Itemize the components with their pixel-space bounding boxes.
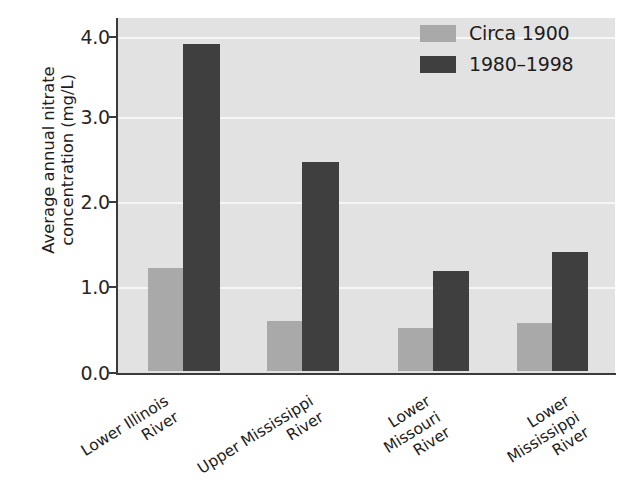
chart-legend: Circa 1900 1980–1998 (420, 22, 620, 84)
y-tick-label-4: 4.0 (64, 26, 110, 48)
legend-swatch-circa-1900 (420, 25, 456, 42)
y-tick-label-2: 2.0 (64, 191, 110, 213)
legend-label-circa-1900: Circa 1900 (469, 22, 569, 44)
y-axis-line (116, 18, 118, 375)
bar-lower-missouri-circa-1900 (398, 328, 433, 371)
bar-upper-mississippi-1980-1998 (302, 162, 339, 371)
bar-lower-mississippi-1980-1998 (552, 252, 588, 371)
bar-lower-mississippi-circa-1900 (517, 323, 552, 371)
bar-lower-illinois-1980-1998 (183, 44, 220, 371)
legend-swatch-1980-1998 (420, 56, 456, 73)
y-tick-label-0: 0.0 (64, 362, 110, 384)
legend-item-1980-1998: 1980–1998 (420, 53, 620, 75)
bar-lower-missouri-1980-1998 (433, 271, 469, 371)
bar-lower-illinois-circa-1900 (148, 268, 183, 371)
x-tick-label-lower-mississippi-river: Lower Mississippi River (444, 392, 592, 498)
x-tick-label-lower-missouri-river: Lower Missouri River (321, 392, 454, 498)
legend-item-circa-1900: Circa 1900 (420, 22, 620, 44)
bar-upper-mississippi-circa-1900 (267, 321, 302, 371)
y-tick-label-3: 3.0 (64, 106, 110, 128)
y-tick-label-1: 1.0 (64, 276, 110, 298)
nitrate-concentration-bar-chart: Average annual nitrate concentration (mg… (0, 0, 628, 498)
legend-label-1980-1998: 1980–1998 (469, 53, 573, 75)
x-axis-line (116, 373, 616, 375)
y-axis-tick-labels: 4.0 3.0 2.0 1.0 0.0 (58, 0, 110, 498)
